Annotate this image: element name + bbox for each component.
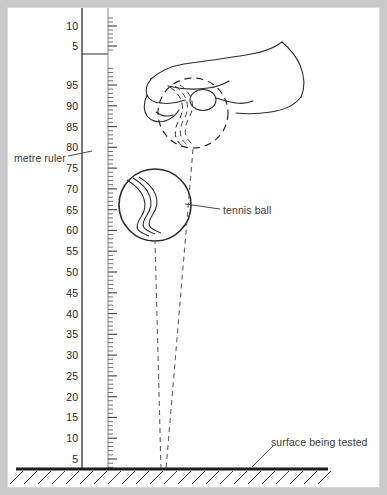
ruler-tick-label: 5 [56, 40, 78, 52]
ruler-tick-label: 95 [56, 79, 78, 91]
ruler-tick-label: 50 [56, 266, 78, 278]
ruler-tick-label: 10 [56, 432, 78, 444]
surface-hatching [10, 471, 331, 484]
ruler-tick-label: 5 [56, 453, 78, 465]
ruler-tick-label: 35 [56, 328, 78, 340]
ruler-tick-label: 20 [56, 391, 78, 403]
ruler-tick-label: 75 [56, 162, 78, 174]
ruler-tick-label: 60 [56, 224, 78, 236]
ruler-tick-label: 85 [56, 121, 78, 133]
ruler-tick-label: 45 [56, 287, 78, 299]
ruler-tick-label: 25 [56, 370, 78, 382]
ruler-tick-label: 30 [56, 349, 78, 361]
drop-path-dashed-lines [155, 149, 193, 469]
label-surface-being-tested: surface being tested [271, 436, 368, 448]
diagram-page: metre ruler tennis ball surface being te… [0, 0, 387, 495]
ruler-tick-label: 80 [56, 141, 78, 153]
ruler-tick-label: 70 [56, 183, 78, 195]
leader-surface [252, 446, 273, 467]
tennis-ball [119, 169, 191, 241]
ruler-tick-label: 40 [56, 308, 78, 320]
held-ball-dashed-outline [158, 78, 228, 148]
ruler-tick-label: 65 [56, 204, 78, 216]
label-tennis-ball: tennis ball [223, 204, 271, 216]
ruler-tick-label: 55 [56, 245, 78, 257]
metre-ruler [82, 8, 117, 469]
ruler-tick-marks [108, 18, 117, 467]
surface-being-tested [10, 469, 331, 484]
diagram-frame: metre ruler tennis ball surface being te… [8, 8, 379, 487]
ruler-tick-label: 15 [56, 411, 78, 423]
ruler-tick-label: 10 [56, 20, 78, 32]
hand-illustration [144, 42, 304, 122]
ruler-tick-label: 90 [56, 100, 78, 112]
